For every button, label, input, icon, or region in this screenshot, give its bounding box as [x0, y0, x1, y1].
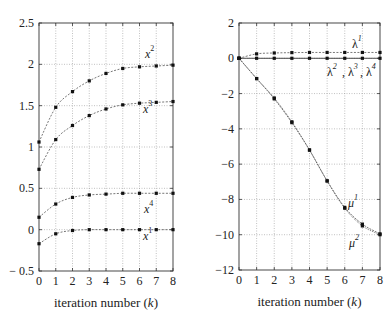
data-point	[237, 57, 240, 60]
data-point	[37, 242, 40, 245]
y-tick-label: 2	[228, 16, 234, 30]
y-tick-label: 0	[228, 51, 234, 65]
data-point	[121, 192, 124, 195]
data-point	[171, 64, 174, 67]
data-point	[290, 120, 293, 123]
data-point	[138, 65, 141, 68]
right-chart: 012345678−12−10−8−6−4−202iteration numbe…	[215, 16, 383, 309]
y-tick-label: 2	[28, 57, 34, 71]
x-tick-label: 4	[103, 274, 109, 288]
series-x1	[37, 228, 174, 245]
data-point	[155, 101, 158, 104]
data-point	[54, 202, 57, 205]
data-point	[171, 192, 174, 195]
data-point	[88, 79, 91, 82]
y-tick-label: 1.5	[19, 99, 34, 113]
x-tick-label: 5	[120, 274, 126, 288]
y-tick-label: 1	[28, 140, 34, 154]
data-point	[308, 51, 311, 54]
data-point	[273, 96, 276, 99]
data-point	[326, 179, 329, 182]
x-tick-label: 2	[271, 273, 277, 287]
data-point	[121, 228, 124, 231]
data-point	[104, 72, 107, 75]
x-tick-label: 2	[70, 274, 76, 288]
x-tick-label: 6	[137, 274, 143, 288]
data-point	[378, 233, 381, 236]
label-x3: x3	[142, 99, 152, 116]
data-point	[71, 196, 74, 199]
data-point	[171, 100, 174, 103]
data-point	[37, 140, 40, 143]
data-point	[71, 90, 74, 93]
x-axis-label: iteration number (k)	[54, 295, 158, 310]
x-tick-label: 8	[170, 274, 176, 288]
data-point	[326, 51, 329, 54]
data-point	[88, 114, 91, 117]
data-point	[121, 103, 124, 106]
data-point	[37, 216, 40, 219]
data-point	[273, 51, 276, 54]
data-point	[54, 106, 57, 109]
data-point	[104, 228, 107, 231]
x-tick-label: 0	[36, 274, 42, 288]
data-point	[361, 51, 364, 54]
data-point	[308, 148, 311, 151]
data-point	[54, 138, 57, 141]
data-point	[88, 228, 91, 231]
data-point	[273, 57, 276, 60]
data-point	[378, 51, 381, 54]
label-lambda2: λ2	[327, 62, 337, 79]
left-chart: 012345678− 0.500.511.522.5iteration numb…	[9, 16, 176, 310]
data-point	[290, 57, 293, 60]
label-x4: x4	[143, 199, 153, 216]
label-mu1: μ1	[347, 193, 358, 210]
data-point	[308, 57, 311, 60]
data-point	[138, 228, 141, 231]
data-point	[343, 51, 346, 54]
data-point	[71, 124, 74, 127]
y-tick-label: −6	[221, 157, 234, 171]
data-point	[138, 192, 141, 195]
data-point	[104, 193, 107, 196]
y-tick-label: 0.5	[19, 181, 34, 195]
data-point	[326, 57, 329, 60]
data-point	[155, 64, 158, 67]
x-tick-label: 1	[53, 274, 59, 288]
figure: 012345678− 0.500.511.522.5iteration numb…	[0, 0, 390, 316]
data-point	[155, 192, 158, 195]
data-point	[88, 193, 91, 196]
y-tick-label: − 0.5	[9, 264, 34, 278]
data-point	[138, 102, 141, 105]
x-tick-label: 8	[377, 273, 383, 287]
series-lambda2,3,4	[237, 57, 381, 60]
data-point	[121, 67, 124, 70]
label-x2: x2	[144, 44, 154, 61]
data-point	[155, 228, 158, 231]
x-tick-label: 0	[236, 273, 242, 287]
label-x1: x1	[142, 226, 152, 243]
data-point	[361, 224, 364, 227]
data-point	[343, 57, 346, 60]
x-tick-label: 4	[307, 273, 313, 287]
x-tick-label: 3	[289, 273, 295, 287]
label-lambda3: , λ3	[342, 62, 358, 79]
x-tick-label: 5	[324, 273, 330, 287]
data-point	[104, 107, 107, 110]
y-tick-label: 0	[28, 223, 34, 237]
y-tick-label: 2.5	[19, 16, 34, 30]
data-point	[255, 52, 258, 55]
data-point	[71, 229, 74, 232]
x-axis-label: iteration number (k)	[258, 294, 362, 309]
x-tick-label: 1	[254, 273, 260, 287]
y-tick-label: −10	[215, 228, 234, 242]
data-point	[361, 57, 364, 60]
label-lambda1: λ1	[352, 34, 362, 51]
data-point	[343, 207, 346, 210]
x-tick-label: 3	[86, 274, 92, 288]
y-tick-label: −8	[221, 192, 234, 206]
x-tick-label: 6	[342, 273, 348, 287]
y-tick-label: −2	[221, 87, 234, 101]
label-mu2: μ2	[348, 233, 359, 250]
x-tick-label: 7	[153, 274, 159, 288]
